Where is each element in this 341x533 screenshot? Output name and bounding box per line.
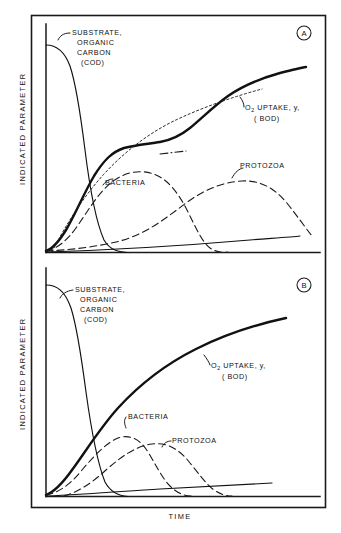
panel-b-bacteria-leader	[125, 417, 127, 428]
panel-b-letter: B	[301, 281, 306, 290]
panel-a-label-substrate-line1: SUBSTRATE,	[72, 28, 122, 37]
panel-a-label-substrate-line4: (COD)	[81, 58, 105, 67]
panel-a-label-o2-uptake: O2 UPTAKE, y,	[245, 103, 300, 113]
panel-b-curve-protozoa	[64, 444, 232, 496]
panel-a-baseline-residual	[47, 236, 300, 252]
panel-b-y-axis-label: INDICATED PARAMETER	[18, 318, 27, 430]
panel-a-y-axis-label: INDICATED PARAMETER	[18, 73, 27, 185]
panel-a-curve-substrate	[46, 45, 127, 253]
panel-a-tangent-dotted	[52, 89, 262, 252]
panel-b-label-bacteria: BACTERIA	[128, 412, 168, 421]
panel-b-o2-leader	[204, 355, 210, 365]
panel-a-label-o2-bod: ( BOD)	[254, 114, 280, 123]
x-axis-label-time: TIME	[168, 512, 191, 521]
panel-b-label-protozoa: PROTOZOA	[172, 436, 217, 445]
panel-a-label-protozoa: PROTOZOA	[240, 161, 285, 170]
panel-a-o2-leader	[240, 97, 244, 107]
panel-b-curve-o2-uptake	[46, 318, 286, 495]
panel-b-curve-bacteria	[46, 437, 192, 496]
panel-b: SUBSTRATE, ORGANIC CARBON (COD) O2 UPTAK…	[18, 268, 320, 521]
panel-b-label-substrate-line3: CARBON	[80, 305, 114, 314]
panel-a-substrate-leader	[58, 33, 70, 40]
panel-a-o2-rest: UPTAKE, y,	[255, 103, 300, 112]
figure-svg: SUBSTRATE, ORGANIC CARBON (COD) O2 UPTAK…	[0, 0, 341, 533]
panel-a-label-substrate-line2: ORGANIC	[77, 38, 114, 47]
panel-a-label-substrate-line3: CARBON	[77, 48, 111, 57]
figure-root: SUBSTRATE, ORGANIC CARBON (COD) O2 UPTAK…	[0, 0, 341, 533]
panel-a-curve-o2-uptake	[46, 67, 306, 251]
panel-a-letter: A	[301, 29, 307, 38]
panel-b-label-o2-uptake: O2 UPTAKE, y,	[211, 361, 266, 371]
panel-b-label-substrate-line4: (COD)	[84, 315, 108, 324]
panel-b-label-o2-bod: ( BOD)	[222, 372, 248, 381]
panel-a-label-bacteria: BACTERIA	[105, 178, 145, 187]
panel-a-plateau-marker	[160, 151, 186, 154]
panel-b-label-substrate-line1: SUBSTRATE,	[75, 285, 125, 294]
panel-b-o2-rest: UPTAKE, y,	[221, 361, 266, 370]
panel-b-label-substrate-line2: ORGANIC	[80, 295, 117, 304]
panel-a: SUBSTRATE, ORGANIC CARBON (COD) O2 UPTAK…	[18, 24, 320, 253]
